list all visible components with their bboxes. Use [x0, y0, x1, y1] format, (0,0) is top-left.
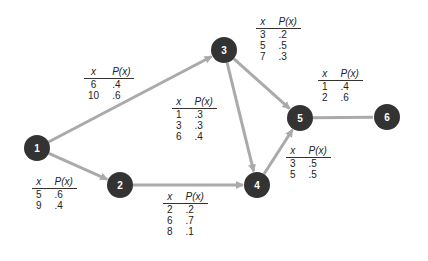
table-row: 5.5	[256, 40, 301, 51]
ptable-edge-5-6: x P(x) 1.4 2.6	[318, 68, 363, 103]
table-row: 2.6	[318, 92, 363, 103]
x-value: 2	[318, 92, 332, 103]
table-row: 6.4	[172, 131, 217, 142]
col-header-x: x	[172, 96, 186, 109]
table-row: 3.5	[286, 158, 331, 170]
ptable-edge-4-5: x P(x) 3.5 5.5	[286, 145, 331, 180]
p-value: .4	[103, 79, 134, 91]
p-value: .4	[186, 131, 217, 142]
table-row: 7.3	[256, 51, 301, 62]
ptable-edge-3-5: x P(x) 3.2 5.5 7.3	[256, 16, 301, 62]
p-value: .3	[186, 109, 217, 121]
x-value: 6	[172, 131, 186, 142]
node-4: 4	[244, 172, 270, 198]
col-header-p: P(x)	[300, 145, 331, 158]
edge-5-6	[313, 117, 373, 118]
p-value: .5	[270, 40, 301, 51]
table-row: 8.1	[163, 226, 208, 237]
x-value: 7	[256, 51, 270, 62]
ptable-edge-1-2: x P(x) 5.6 9.4	[32, 176, 77, 211]
col-header-p: P(x)	[103, 66, 134, 79]
table-row: 1.4	[318, 81, 363, 93]
node-label: 6	[384, 112, 390, 123]
p-value: .5	[300, 169, 331, 180]
node-label: 4	[254, 180, 260, 191]
p-value: .6	[46, 189, 77, 201]
node-3: 3	[211, 37, 237, 63]
col-header-p: P(x)	[177, 191, 208, 204]
x-value: 3	[286, 158, 300, 170]
edge-3-5	[234, 59, 290, 109]
table-row: 5.5	[286, 169, 331, 180]
x-value: 5	[32, 189, 46, 201]
p-value: .4	[46, 200, 77, 211]
ptable-edge-3-4: x P(x) 1.3 3.3 6.4	[172, 96, 217, 142]
x-value: 3	[256, 29, 270, 41]
col-header-p: P(x)	[186, 96, 217, 109]
table-row: 9.4	[32, 200, 77, 211]
col-header-p: P(x)	[332, 68, 363, 81]
p-value: .2	[177, 204, 208, 216]
x-value: 8	[163, 226, 177, 237]
x-value: 9	[32, 200, 46, 211]
node-label: 3	[221, 45, 227, 56]
x-value: 6	[84, 79, 103, 91]
node-label: 5	[297, 113, 303, 124]
col-header-x: x	[256, 16, 270, 29]
col-header-x: x	[32, 176, 46, 189]
p-value: .3	[186, 120, 217, 131]
p-value: .6	[332, 92, 363, 103]
x-value: 1	[318, 81, 332, 93]
ptable-edge-2-4: x P(x) 2.2 6.7 8.1	[163, 191, 208, 237]
table-row: 5.6	[32, 189, 77, 201]
node-label: 2	[117, 180, 123, 191]
node-2: 2	[107, 172, 133, 198]
network-diagram: 123456 x P(x) 6.4 10.6 x P(x) 3.2 5.5 7.…	[0, 0, 428, 261]
node-1: 1	[24, 135, 50, 161]
p-value: .2	[270, 29, 301, 41]
ptable-edge-1-3: x P(x) 6.4 10.6	[84, 66, 134, 101]
table-row: 3.3	[172, 120, 217, 131]
table-row: 3.2	[256, 29, 301, 41]
node-5: 5	[287, 105, 313, 131]
table-row: 6.7	[163, 215, 208, 226]
x-value: 5	[256, 40, 270, 51]
table-row: 2.2	[163, 204, 208, 216]
col-header-p: P(x)	[46, 176, 77, 189]
col-header-x: x	[163, 191, 177, 204]
x-value: 5	[286, 169, 300, 180]
p-value: .7	[177, 215, 208, 226]
x-value: 2	[163, 204, 177, 216]
x-value: 3	[172, 120, 186, 131]
x-value: 6	[163, 215, 177, 226]
table-row: 1.3	[172, 109, 217, 121]
table-row: 10.6	[84, 90, 134, 101]
p-value: .4	[332, 81, 363, 93]
col-header-x: x	[286, 145, 300, 158]
node-label: 1	[34, 143, 40, 154]
col-header-p: P(x)	[270, 16, 301, 29]
p-value: .3	[270, 51, 301, 62]
p-value: .6	[103, 90, 134, 101]
x-value: 1	[172, 109, 186, 121]
col-header-x: x	[318, 68, 332, 81]
table-row: 6.4	[84, 79, 134, 91]
col-header-x: x	[84, 66, 103, 79]
x-value: 10	[84, 90, 103, 101]
edge-3-4	[227, 63, 254, 172]
node-6: 6	[374, 104, 400, 130]
p-value: .1	[177, 226, 208, 237]
p-value: .5	[300, 158, 331, 170]
